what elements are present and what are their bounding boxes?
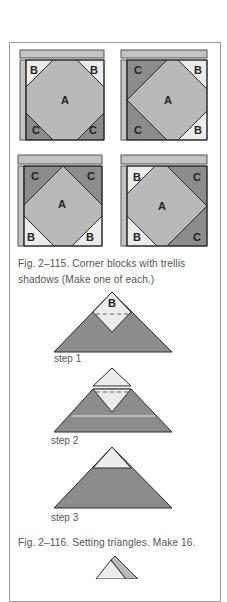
trellis-shadow-left: [18, 166, 24, 246]
label-center: A: [164, 94, 172, 106]
label-top-right: C: [193, 171, 201, 183]
label-center: A: [158, 200, 166, 212]
trimmed-tip: [93, 368, 131, 386]
label-patch-b: B: [108, 297, 116, 309]
label-bottom-right: C: [193, 231, 201, 243]
step-1-label: step 1: [54, 353, 81, 364]
trellis-shadow-top: [121, 50, 207, 58]
label-center: A: [58, 198, 66, 210]
corner-block-4: B C A B C: [121, 155, 207, 246]
corner-block-2: C B A C B: [121, 50, 207, 140]
figure-116-caption: Fig. 2–116. Setting triangles. Make 16.: [18, 535, 196, 551]
label-bottom-left: B: [133, 231, 141, 243]
caption-line-1: Fig. 2–115. Corner blocks with trellis: [18, 256, 185, 272]
label-bottom-right: B: [194, 124, 202, 136]
label-bottom-right: B: [86, 231, 94, 243]
label-bottom-left: B: [27, 231, 35, 243]
label-top-left: C: [31, 170, 39, 182]
label-top-right: C: [87, 170, 95, 182]
trellis-shadow-left: [121, 166, 127, 246]
label-top-right: B: [194, 64, 202, 76]
light-tip: [93, 447, 131, 468]
label-center: A: [61, 94, 69, 106]
figure-115-caption: Fig. 2–115. Corner blocks with trellis s…: [18, 256, 185, 288]
corner-block-1: B B A C C: [20, 50, 104, 140]
setting-triangle-step-1: B: [54, 292, 172, 352]
label-top-left: B: [133, 171, 141, 183]
step-2-label: step 2: [51, 435, 78, 446]
trellis-shadow-left: [20, 60, 26, 140]
step-3-label: step 3: [51, 512, 78, 523]
caption-line-2: shadows (Make one of each.): [18, 272, 185, 288]
label-top-left: B: [30, 64, 38, 76]
trellis-shadow-top: [121, 155, 207, 164]
label-bottom-left: C: [32, 124, 40, 136]
label-top-right: B: [90, 64, 98, 76]
trellis-shadow-top: [20, 50, 104, 58]
corner-block-3: C C A B B: [18, 155, 102, 246]
trellis-shadow-top: [18, 155, 102, 164]
label-bottom-left: C: [134, 124, 142, 136]
next-figure-partial: [96, 556, 138, 579]
label-top-left: C: [134, 64, 142, 76]
trellis-shadow-left: [121, 60, 127, 140]
setting-triangle-step-3: [54, 447, 172, 508]
label-bottom-right: C: [89, 124, 97, 136]
setting-triangle-step-2: [54, 368, 172, 432]
